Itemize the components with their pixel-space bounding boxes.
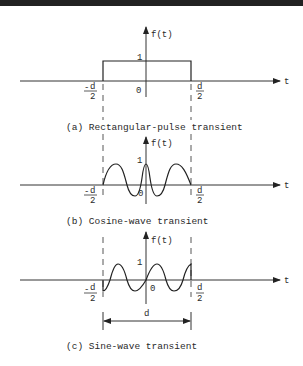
- t-axis-label: t: [284, 276, 289, 286]
- f-axis-label: f(t): [151, 139, 173, 149]
- f-axis-label: f(t): [151, 236, 173, 246]
- neg-d-over-2-label: - d 2: [84, 82, 97, 102]
- panel-c-sine-wave: t f(t) 1 0 - d 2 d 2 d (c) Sine-wave tra…: [20, 232, 289, 352]
- svg-text:d: d: [197, 283, 202, 293]
- svg-text:d: d: [197, 82, 202, 92]
- origin-label: 0: [150, 284, 155, 294]
- t-axis-label: t: [284, 77, 289, 87]
- svg-text:-: -: [84, 285, 89, 295]
- neg-d-over-2-label: - d 2: [84, 283, 97, 304]
- neg-d-over-2-label: - d 2: [84, 186, 97, 206]
- svg-text:-: -: [84, 187, 89, 197]
- svg-text:d: d: [90, 283, 95, 293]
- panel-b-cosine-wave: t f(t) 1 0 - d 2 d 2 (b) Cosine-wave tra…: [20, 134, 289, 227]
- d-over-2-label: d 2: [196, 186, 204, 206]
- width-label: d: [144, 309, 149, 319]
- sine-wave-curve: [103, 264, 191, 291]
- caption-b: (b) Cosine-wave transient: [66, 216, 209, 227]
- d-over-2-label: d 2: [196, 283, 204, 304]
- svg-text:2: 2: [197, 196, 202, 206]
- t-axis-label: t: [284, 181, 289, 191]
- svg-text:d: d: [90, 186, 95, 196]
- f-axis-label: f(t): [151, 30, 173, 40]
- svg-text:d: d: [197, 186, 202, 196]
- amplitude-label: 1: [137, 156, 142, 166]
- caption-a: (a) Rectangular-pulse transient: [66, 122, 243, 133]
- d-over-2-label: d 2: [196, 82, 204, 102]
- caption-c: (c) Sine-wave transient: [66, 341, 197, 352]
- panel-a-rectangular-pulse: t f(t) 1 0 - d 2 d 2 (a) Rectangular-pul…: [20, 27, 289, 133]
- svg-text:2: 2: [197, 92, 202, 102]
- transient-diagram: t f(t) 1 0 - d 2 d 2 (a) Rectangular-pul…: [0, 0, 303, 366]
- rectangular-pulse-curve: [103, 61, 191, 81]
- width-dimension: d: [103, 309, 191, 330]
- svg-text:d: d: [90, 82, 95, 92]
- svg-text:-: -: [84, 83, 89, 93]
- svg-text:2: 2: [90, 196, 95, 206]
- amplitude-label: 1: [137, 258, 142, 268]
- svg-text:2: 2: [90, 294, 95, 304]
- svg-text:2: 2: [197, 294, 202, 304]
- origin-label: 0: [136, 86, 141, 96]
- svg-text:2: 2: [90, 92, 95, 102]
- cosine-wave-curve: [103, 164, 191, 196]
